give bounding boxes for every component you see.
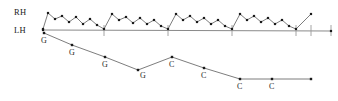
rh-data-point bbox=[125, 16, 127, 18]
rh-data-point bbox=[103, 28, 105, 30]
note-name-label: C bbox=[169, 60, 174, 69]
note-data-point bbox=[43, 32, 45, 34]
rh-data-point bbox=[47, 12, 49, 14]
trajectory-plot: GGGGCCCC RH LH bbox=[0, 0, 338, 101]
rh-data-point bbox=[310, 13, 312, 15]
note-name-labels: GGGGCCCC bbox=[41, 36, 274, 91]
rh-data-point bbox=[139, 17, 141, 19]
rh-axis-label: RH bbox=[14, 7, 26, 17]
rh-data-point bbox=[75, 16, 77, 18]
lh-axis-label: LH bbox=[14, 25, 26, 35]
notes-markers bbox=[43, 32, 312, 80]
rh-data-point bbox=[210, 23, 212, 25]
rh-data-point bbox=[61, 15, 63, 17]
note-data-point bbox=[310, 78, 312, 80]
rh-data-point bbox=[281, 19, 283, 21]
rh-data-point bbox=[82, 23, 84, 25]
rh-data-point bbox=[111, 13, 113, 15]
rh-data-point bbox=[246, 19, 248, 21]
note-data-point bbox=[171, 56, 173, 58]
rh-data-point bbox=[54, 18, 56, 20]
rh-data-point bbox=[167, 28, 169, 30]
lh-endpoint-marker bbox=[330, 30, 332, 32]
rh-data-point bbox=[146, 23, 148, 25]
rh-data-point bbox=[295, 28, 297, 30]
notes-series-group: GGGGCCCC bbox=[41, 32, 312, 91]
note-data-point bbox=[104, 56, 106, 58]
note-name-label: G bbox=[102, 60, 108, 69]
rh-data-point bbox=[175, 13, 177, 15]
lh-baseline bbox=[43, 30, 331, 31]
note-name-label: C bbox=[269, 82, 274, 91]
note-data-point bbox=[239, 78, 241, 80]
rh-data-point bbox=[274, 23, 276, 25]
rh-data-point bbox=[260, 21, 262, 23]
rh-data-point bbox=[224, 25, 226, 27]
rh-data-point bbox=[189, 15, 191, 17]
rh-data-point bbox=[196, 21, 198, 23]
note-name-label: G bbox=[140, 71, 146, 80]
rh-data-point bbox=[267, 17, 269, 19]
note-data-point bbox=[203, 67, 205, 69]
rh-data-point bbox=[153, 19, 155, 21]
rh-data-point bbox=[203, 17, 205, 19]
note-data-point bbox=[271, 78, 273, 80]
rh-series-group bbox=[42, 12, 312, 30]
rh-data-point bbox=[182, 19, 184, 21]
note-name-label: G bbox=[69, 48, 75, 57]
rh-data-point bbox=[68, 21, 70, 23]
note-data-point bbox=[137, 69, 139, 71]
rh-data-point bbox=[96, 24, 98, 26]
rh-data-point bbox=[118, 19, 120, 21]
note-data-point bbox=[71, 44, 73, 46]
note-name-label: G bbox=[41, 36, 47, 45]
notes-line bbox=[44, 33, 311, 79]
rh-line bbox=[43, 13, 311, 29]
note-name-label: C bbox=[237, 82, 242, 91]
rh-data-point bbox=[132, 22, 134, 24]
rh-data-point bbox=[231, 28, 233, 30]
rh-data-point bbox=[160, 25, 162, 27]
rh-data-point bbox=[288, 25, 290, 27]
rh-data-point bbox=[253, 15, 255, 17]
rh-data-point bbox=[89, 18, 91, 20]
rh-data-point bbox=[42, 28, 44, 30]
note-name-label: C bbox=[201, 71, 206, 80]
figure-root: GGGGCCCC RH LH bbox=[0, 0, 338, 101]
rh-data-point bbox=[239, 13, 241, 15]
rh-data-point bbox=[217, 19, 219, 21]
